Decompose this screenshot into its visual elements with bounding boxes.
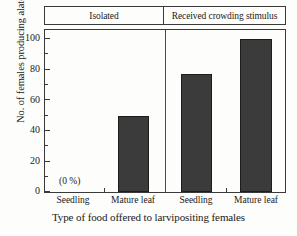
x-tick-2 [226, 188, 227, 192]
x-category-label-3: Mature leaf [234, 195, 278, 205]
x-category-label-0: Seedling [56, 195, 89, 205]
x-category-label-2: Seedling [179, 195, 212, 205]
y-tick-80 [45, 69, 50, 70]
group-header-crowded: Received crowding stimulus [164, 6, 286, 25]
y-tick-60 [45, 99, 50, 100]
y-tick-0 [45, 191, 50, 192]
x-category-label-row: Seedling Mature leaf Seedling Mature lea… [44, 195, 286, 209]
bar-crowded-seedling [181, 74, 212, 192]
group-header-isolated: Isolated [44, 6, 164, 25]
plot-area: (0 %) [44, 29, 286, 193]
x-axis-label: Type of food offered to larvipositing fe… [0, 211, 297, 223]
plot-inner: (0 %) [45, 30, 285, 192]
x-tick-1 [104, 188, 105, 192]
y-tick-20 [45, 161, 50, 162]
y-tick-label-40: 40 [14, 125, 40, 135]
group-header-row: Isolated Received crowding stimulus [44, 6, 286, 25]
y-tick-minor-50 [45, 115, 48, 116]
y-tick-minor-10 [45, 176, 48, 177]
y-tick-100 [45, 38, 50, 39]
y-tick-label-0: 0 [14, 186, 40, 196]
x-category-label-1: Mature leaf [111, 195, 155, 205]
bar-crowded-mature-leaf [240, 39, 272, 192]
y-axis-label: No. of females producing alate offspring… [15, 0, 29, 123]
y-tick-minor-90 [45, 53, 48, 54]
y-tick-minor-70 [45, 84, 48, 85]
bar-isolated-mature-leaf [118, 116, 149, 193]
y-tick-minor-30 [45, 145, 48, 146]
y-tick-label-20: 20 [14, 156, 40, 166]
panel-divider [165, 30, 166, 192]
chart-figure: No. of females producing alate offspring… [0, 0, 297, 236]
zero-percent-annotation: (0 %) [59, 176, 80, 186]
y-tick-40 [45, 130, 50, 131]
